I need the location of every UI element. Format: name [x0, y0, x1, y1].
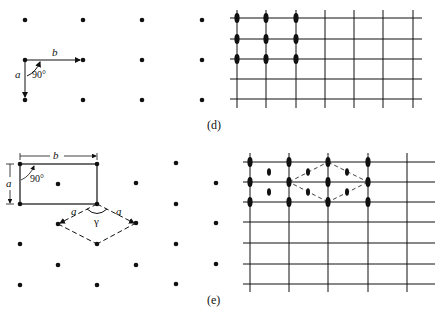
- lattice-point: [23, 18, 28, 23]
- panel-e-gamma-arc: [87, 209, 107, 214]
- lattice-point: [214, 262, 219, 267]
- lattice-point: [95, 283, 100, 288]
- twofold-axis-mark: [325, 177, 330, 187]
- rect-a-label: a: [6, 177, 12, 189]
- lattice-point: [56, 263, 61, 268]
- twofold-axis-mark-minor: [345, 168, 349, 176]
- twofold-axis-mark-minor: [267, 188, 271, 196]
- panel-d-grid: [230, 10, 422, 108]
- lattice-point: [174, 282, 179, 287]
- rhomb-a-label-left: a: [71, 205, 77, 217]
- twofold-axis-mark: [263, 13, 268, 23]
- twofold-axis-mark: [293, 34, 298, 44]
- gamma-label: γ: [94, 215, 99, 227]
- twofold-axis-mark: [365, 177, 370, 187]
- lattice-point: [200, 58, 205, 63]
- twofold-axis-mark: [247, 177, 252, 187]
- lattice-point: [56, 182, 61, 187]
- twofold-axis-mark: [234, 13, 239, 23]
- rect-b-label: b: [53, 149, 59, 161]
- lattice-point: [23, 98, 28, 103]
- lattice-point: [134, 181, 139, 186]
- vector-b-label: b: [52, 46, 58, 58]
- lattice-point: [174, 202, 179, 207]
- lattice-point: [140, 98, 145, 103]
- twofold-axis-mark: [365, 197, 370, 207]
- lattice-point: [200, 98, 205, 103]
- caption-e: (e): [207, 293, 220, 308]
- twofold-axis-mark: [247, 197, 252, 207]
- twofold-axis-mark: [325, 197, 330, 207]
- twofold-axis-mark-minor: [345, 188, 349, 196]
- angle-label-e: 90°: [30, 173, 44, 184]
- lattice-point: [214, 221, 219, 226]
- lattice-point: [18, 283, 23, 288]
- twofold-axis-mark: [263, 54, 268, 64]
- caption-d: (d): [207, 118, 221, 133]
- twofold-axis-mark: [247, 157, 252, 167]
- lattice-point: [81, 98, 86, 103]
- twofold-axis-mark-minor: [306, 188, 310, 196]
- vector-a-label: a: [15, 68, 21, 80]
- twofold-axis-mark-minor: [306, 168, 310, 176]
- lattice-point: [81, 58, 86, 63]
- lattice-point: [174, 161, 179, 166]
- twofold-axis-mark-minor: [267, 168, 271, 176]
- lattice-point: [200, 18, 205, 23]
- lattice-point: [81, 18, 86, 23]
- lattice-diagram: [0, 0, 441, 310]
- twofold-axis-mark: [293, 54, 298, 64]
- twofold-axis-mark: [286, 177, 291, 187]
- angle-label-d: 90°: [32, 69, 46, 80]
- twofold-axis-mark: [263, 34, 268, 44]
- twofold-axis-mark: [293, 13, 298, 23]
- twofold-axis-mark: [234, 54, 239, 64]
- twofold-axis-mark: [365, 157, 370, 167]
- lattice-point: [214, 181, 219, 186]
- twofold-axis-mark: [325, 157, 330, 167]
- lattice-point: [140, 18, 145, 23]
- twofold-axis-mark: [286, 197, 291, 207]
- panel-e-grid: [243, 153, 435, 292]
- lattice-point: [140, 58, 145, 63]
- lattice-point: [18, 242, 23, 247]
- lattice-point: [134, 263, 139, 268]
- lattice-point: [174, 242, 179, 247]
- twofold-axis-mark: [234, 34, 239, 44]
- panel-e-lattice-points: [18, 161, 219, 288]
- rhomb-a-label-right: a: [116, 205, 122, 217]
- twofold-axis-mark: [286, 157, 291, 167]
